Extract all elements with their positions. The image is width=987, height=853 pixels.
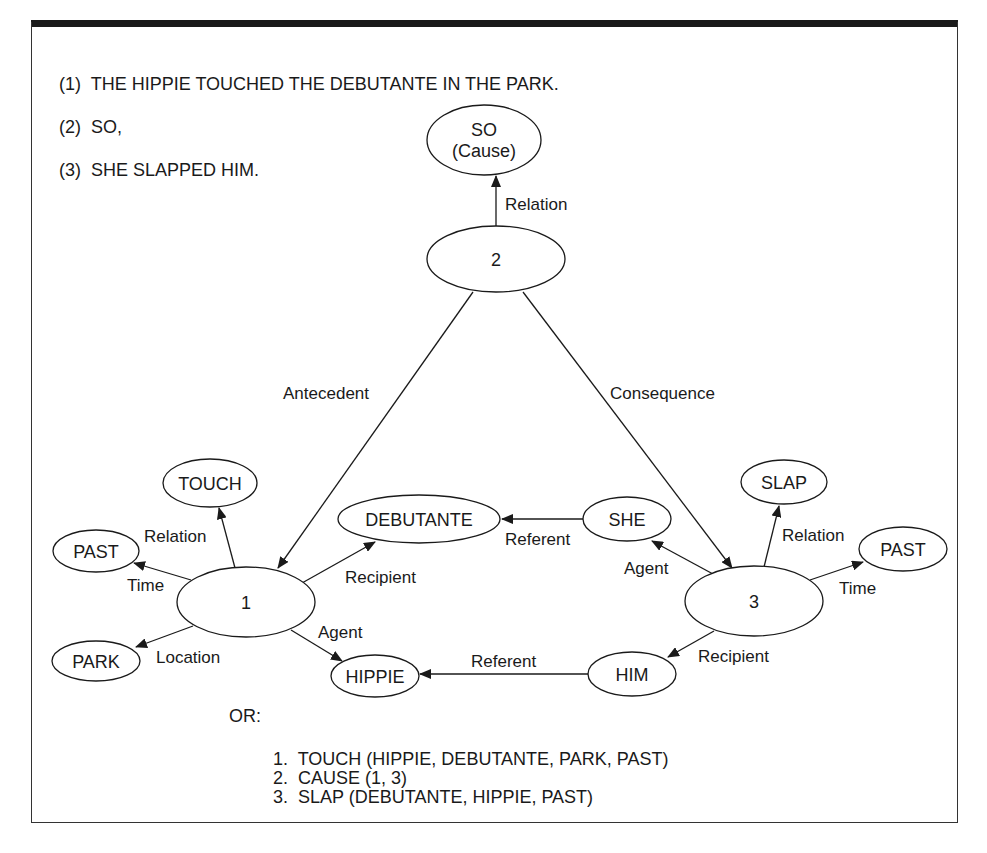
proposition-3: 3. SLAP (DEBUTANTE, HIPPIE, PAST) — [273, 788, 593, 807]
edge-location-1 — [136, 626, 193, 647]
node-label: SO — [471, 120, 497, 140]
edge-label: Relation — [782, 526, 844, 545]
node-label: HIPPIE — [345, 667, 404, 687]
edge-label: Antecedent — [283, 384, 369, 403]
node-label: PAST — [73, 542, 119, 562]
edge-label: Consequence — [610, 384, 715, 403]
node-label: SLAP — [761, 473, 807, 493]
node-so-cause — [427, 105, 541, 175]
node-label: SHE — [608, 510, 645, 530]
edge-label: Referent — [505, 530, 570, 549]
node-label: (Cause) — [452, 141, 516, 161]
node-label: PAST — [880, 540, 926, 560]
edge-label: Location — [156, 648, 220, 667]
edge-label: Time — [127, 576, 164, 595]
node-label: 3 — [749, 592, 759, 612]
edge-label: Referent — [471, 652, 536, 671]
edge-label: Agent — [624, 559, 669, 578]
edge-label: Recipient — [698, 647, 769, 666]
edge-relation-slap — [764, 506, 779, 567]
edge-label: Time — [839, 579, 876, 598]
edge-label: Agent — [318, 623, 363, 642]
node-label: TOUCH — [178, 474, 242, 494]
edge-label: Relation — [144, 527, 206, 546]
proposition-2: 2. CAUSE (1, 3) — [273, 769, 407, 788]
or-label: OR: — [229, 706, 261, 727]
edge-relation-touch — [219, 508, 235, 568]
edge-time-3 — [810, 562, 863, 580]
edge-label: Relation — [505, 195, 567, 214]
node-label: HIM — [616, 665, 649, 685]
proposition-1: 1. TOUCH (HIPPIE, DEBUTANTE, PARK, PAST) — [273, 750, 668, 769]
node-label: 2 — [491, 250, 501, 270]
semantic-network: SO (Cause) 2 1 3 TOUCH PAST PARK DEBUTAN… — [0, 0, 987, 853]
node-label: 1 — [241, 593, 251, 613]
node-label: DEBUTANTE — [365, 510, 473, 530]
node-label: PARK — [72, 652, 120, 672]
edge-label: Recipient — [345, 568, 416, 587]
